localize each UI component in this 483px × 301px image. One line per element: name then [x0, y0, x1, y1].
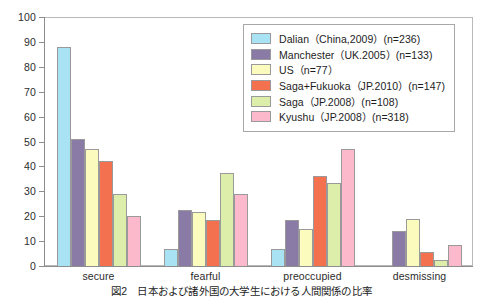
x-tick-label: desmissing	[366, 270, 473, 282]
bar	[448, 245, 462, 266]
legend-swatch	[251, 33, 271, 44]
legend-swatch	[251, 111, 271, 122]
y-tick-label: 90	[0, 36, 44, 48]
legend-label: Kyushu（JP.2008）(n=318)	[279, 109, 409, 124]
legend-label: US（n=77）	[279, 62, 338, 77]
bar	[127, 216, 141, 266]
bar	[341, 149, 355, 266]
bar	[220, 173, 234, 266]
legend-swatch	[251, 96, 271, 107]
x-tick-label: secure	[45, 270, 152, 282]
y-tick-label: 80	[0, 61, 44, 73]
bar	[164, 249, 178, 266]
legend-swatch	[251, 49, 271, 60]
legend-item: Manchester（UK.2005）(n=133)	[251, 47, 445, 63]
legend-item: Saga（JP.2008）(n=108)	[251, 93, 445, 109]
x-tick-label: fearful	[152, 270, 259, 282]
bar	[313, 176, 327, 266]
bar	[57, 47, 71, 266]
legend-swatch	[251, 80, 271, 91]
legend-item: Kyushu（JP.2008）(n=318)	[251, 109, 445, 125]
bar	[206, 220, 220, 266]
bar	[285, 220, 299, 266]
legend-label: Manchester（UK.2005）(n=133)	[279, 47, 433, 62]
legend-label: Saga（JP.2008）(n=108)	[279, 94, 398, 109]
bar	[178, 210, 192, 266]
bar	[392, 231, 406, 266]
y-tick-label: 100	[0, 11, 44, 23]
y-tick-label: 30	[0, 185, 44, 197]
bar	[192, 212, 206, 266]
figure-number: 図2	[111, 285, 127, 297]
y-tick-label: 10	[0, 235, 44, 247]
bar	[85, 149, 99, 266]
bar-group	[45, 17, 152, 266]
bar-group-bars	[45, 17, 152, 266]
y-tick-label: 70	[0, 86, 44, 98]
legend-label: Dalian（China,2009）(n=236)	[279, 31, 420, 46]
chart-legend: Dalian（China,2009）(n=236)Manchester（UK.2…	[243, 24, 455, 132]
bar	[71, 139, 85, 266]
bar	[327, 183, 341, 266]
y-tick-label: 40	[0, 160, 44, 172]
figure-caption-text: 日本および諸外国の大学生における人間関係の比率	[137, 285, 372, 297]
legend-item: US（n=77）	[251, 62, 445, 78]
y-tick-label: 0	[0, 260, 44, 272]
bar	[434, 260, 448, 266]
y-tick-label: 60	[0, 111, 44, 123]
bar	[406, 219, 420, 266]
bar	[299, 229, 313, 266]
bar	[420, 252, 434, 266]
y-tick-label: 50	[0, 136, 44, 148]
x-tick-label: preoccupied	[259, 270, 366, 282]
bar	[271, 249, 285, 266]
bar	[113, 194, 127, 266]
x-axis	[44, 266, 473, 267]
bar	[99, 161, 113, 266]
y-tick-label: 20	[0, 210, 44, 222]
bar	[234, 194, 248, 266]
y-tick-mark	[39, 266, 45, 267]
figure-caption: 図2日本および諸外国の大学生における人間関係の比率	[0, 283, 483, 298]
legend-item: Saga+Fukuoka（JP.2010）(n=147)	[251, 78, 445, 94]
legend-item: Dalian（China,2009）(n=236)	[251, 31, 445, 47]
legend-swatch	[251, 64, 271, 75]
legend-label: Saga+Fukuoka（JP.2010）(n=147)	[279, 78, 445, 93]
figure-container: 0102030405060708090100 securefearfulpreo…	[0, 0, 483, 301]
